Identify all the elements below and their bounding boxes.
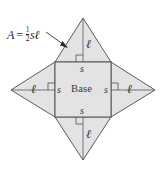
slant-label-bottom-ell: ℓ <box>86 128 91 140</box>
slant-label-right-ell: ℓ <box>127 83 132 95</box>
formula-fraction-numerator: 1 <box>26 26 30 34</box>
side-label-top-s: s <box>80 64 84 74</box>
geometry-figure-square-pyramid-net: A=12sℓ Base s s s s ℓ ℓ ℓ ℓ <box>0 0 164 173</box>
side-label-right-s: s <box>104 85 108 95</box>
side-label-left-s: s <box>57 85 61 95</box>
formula-fraction-denominator: 2 <box>26 34 30 43</box>
base-face-label: Base <box>71 84 92 95</box>
side-label-bottom-s: s <box>80 106 84 116</box>
formula-equals: = <box>14 28 25 42</box>
formula-factor-ell: ℓ <box>35 28 40 42</box>
formula-fraction: 12 <box>26 26 30 42</box>
area-formula-label: A=12sℓ <box>7 26 40 43</box>
slant-label-left-ell: ℓ <box>31 83 36 95</box>
slant-label-top-ell: ℓ <box>86 38 91 50</box>
